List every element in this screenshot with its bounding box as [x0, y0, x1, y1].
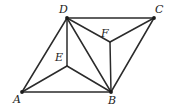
vertex-label-a: A	[13, 94, 21, 105]
vertex-label-f: F	[101, 28, 109, 39]
edge-ae	[22, 66, 67, 92]
vertex-dot-d	[65, 16, 69, 20]
edges-group	[22, 18, 154, 92]
vertex-label-d: D	[59, 4, 68, 15]
geometry-canvas	[0, 0, 172, 111]
vertex-label-e: E	[55, 52, 63, 63]
vertex-dot-c	[152, 16, 156, 20]
geometry-figure: ABCDEF	[0, 0, 172, 111]
edge-eb	[67, 66, 111, 92]
vertex-label-c: C	[155, 4, 163, 15]
vertex-label-b: B	[108, 95, 116, 106]
edge-fb	[110, 42, 111, 92]
